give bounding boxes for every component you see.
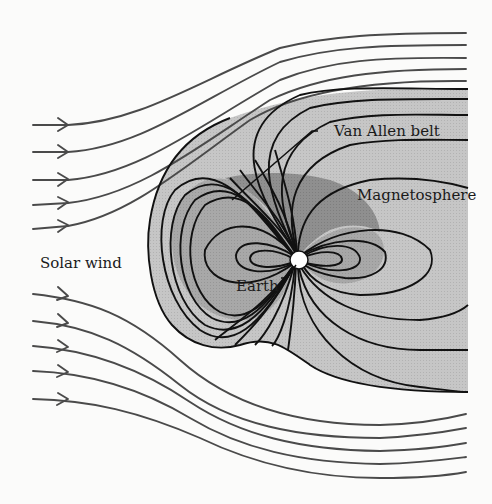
earth-icon	[290, 251, 308, 269]
magnetosphere-label: Magnetosphere	[357, 188, 476, 203]
magnetosphere-diagram: Solar wind Van Allen belt Magnetosphere …	[0, 0, 492, 504]
earth	[290, 251, 308, 269]
solar-wind-label: Solar wind	[40, 256, 122, 271]
van-allen-belt-label: Van Allen belt	[334, 124, 440, 139]
earth-label: Earth	[236, 279, 279, 294]
diagram-graphic	[0, 0, 492, 504]
